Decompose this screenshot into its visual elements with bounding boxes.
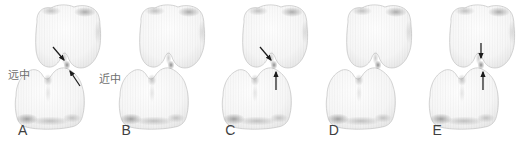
molar-contact-illustration bbox=[311, 0, 415, 146]
upper-molar-shading bbox=[178, 7, 200, 17]
lower-molar-groove-shadow bbox=[356, 84, 362, 102]
lower-molar bbox=[119, 68, 188, 129]
illustration-root bbox=[430, 5, 517, 129]
lower-molar-groove-shadow bbox=[149, 84, 155, 102]
annotation-mesial: 近中 bbox=[99, 73, 121, 85]
contact-point-shadow bbox=[271, 61, 278, 70]
panel-D: D bbox=[311, 0, 415, 146]
panel-C: C bbox=[207, 0, 311, 146]
lower-molar-cervical-band bbox=[167, 113, 185, 122]
upper-molar-shading bbox=[488, 7, 510, 17]
upper-molar-shading bbox=[94, 20, 102, 44]
upper-molar-shading bbox=[405, 20, 413, 44]
panel-label: E bbox=[432, 123, 442, 137]
panel-E: E bbox=[414, 0, 518, 146]
panel-label: B bbox=[122, 123, 132, 137]
contact-point-shadow bbox=[63, 61, 70, 70]
contact-point-shadow bbox=[167, 61, 174, 70]
upper-molar-shading bbox=[198, 20, 206, 44]
lower-molar-groove-shadow bbox=[252, 84, 258, 102]
lower-molar-groove-shadow bbox=[45, 84, 51, 102]
upper-molar-shading bbox=[74, 7, 96, 17]
molar-contact-illustration bbox=[414, 0, 518, 146]
upper-molar bbox=[450, 5, 516, 68]
contact-point-shadow bbox=[478, 61, 485, 70]
upper-molar-shading bbox=[352, 7, 372, 16]
contact-point-shadow bbox=[374, 61, 381, 70]
panel-label: A bbox=[18, 123, 28, 137]
dental-contact-figure: 远中 近中 A bbox=[0, 0, 518, 146]
illustration-root bbox=[326, 5, 413, 129]
lower-molar-cervical-band bbox=[477, 113, 495, 122]
molar-contact-illustration bbox=[207, 0, 311, 146]
panel-label: C bbox=[225, 123, 236, 137]
illustration-root bbox=[119, 5, 206, 129]
upper-molar-shading bbox=[385, 7, 407, 17]
upper-molar-shading bbox=[41, 7, 61, 16]
panel-label: D bbox=[329, 123, 340, 137]
lower-molar bbox=[430, 68, 499, 129]
upper-molar-shading bbox=[455, 7, 475, 16]
lower-molar-cervical-band bbox=[270, 113, 288, 122]
upper-molar bbox=[346, 5, 412, 68]
upper-molar-shading bbox=[281, 7, 303, 17]
upper-molar-shading bbox=[248, 7, 268, 16]
illustration-root bbox=[222, 5, 309, 129]
annotation-distal: 远中 bbox=[8, 69, 30, 81]
lower-molar-cervical-band bbox=[374, 113, 392, 122]
lower-molar bbox=[222, 68, 291, 129]
upper-molar bbox=[243, 5, 309, 68]
lower-molar bbox=[326, 68, 395, 129]
upper-molar-shading bbox=[301, 20, 309, 44]
lower-molar-cervical-band bbox=[63, 113, 81, 122]
upper-molar bbox=[36, 5, 102, 68]
illustration-root bbox=[15, 5, 102, 129]
lower-molar-groove-shadow bbox=[459, 84, 465, 102]
panels-row: 远中 近中 A bbox=[0, 0, 518, 146]
upper-molar-shading bbox=[508, 20, 516, 44]
upper-molar bbox=[139, 5, 205, 68]
panel-A: 远中 近中 A bbox=[0, 0, 104, 146]
upper-molar-shading bbox=[145, 7, 165, 16]
